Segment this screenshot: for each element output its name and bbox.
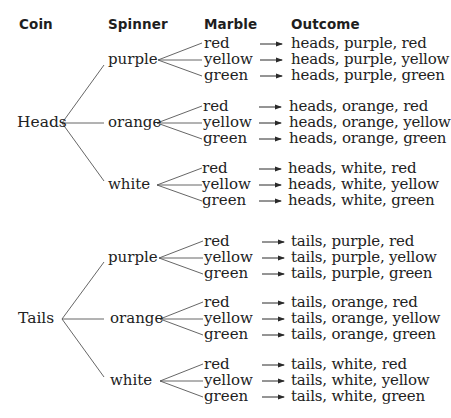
outcome-label: tails, purple, green [291,265,432,281]
marble-node: red [204,35,230,51]
spinner-node-heads-orange: orange [108,114,161,130]
marble-node: green [204,67,248,83]
marble-node: green [204,265,248,281]
spinner-node-heads-white: white [108,176,150,192]
marble-node: red [204,356,230,372]
marble-node: yellow [204,249,253,265]
marble-node: yellow [202,176,251,192]
marble-node: green [204,326,248,342]
spinner-node-tails-purple: purple [108,249,158,265]
outcome-label: heads, white, green [288,192,434,208]
outcome-label: tails, orange, green [291,326,436,342]
marble-node: red [202,160,228,176]
outcome-label: tails, white, yellow [291,372,429,388]
outcome-label: heads, white, red [288,160,416,176]
marble-node: yellow [204,372,253,388]
outcome-label: tails, orange, red [291,294,418,310]
coin-node-heads: Heads [17,114,67,130]
outcome-label: heads, purple, yellow [291,51,449,67]
outcome-label: heads, orange, yellow [289,114,451,130]
spinner-node-heads-purple: purple [108,51,158,67]
marble-node: yellow [203,114,252,130]
marble-node: red [204,233,230,249]
marble-node: yellow [204,310,253,326]
marble-node: yellow [204,51,253,67]
marble-node: red [204,294,230,310]
outcome-label: tails, white, green [291,388,425,404]
outcome-label: heads, white, yellow [288,176,439,192]
marble-node: red [203,98,229,114]
spinner-node-tails-orange: orange [110,310,163,326]
spinner-node-tails-white: white [110,372,152,388]
outcome-label: heads, orange, red [289,98,428,114]
outcome-label: heads, orange, green [289,130,446,146]
outcome-label: heads, purple, red [291,35,427,51]
coin-node-tails: Tails [18,310,54,326]
outcome-label: tails, white, red [291,356,407,372]
outcome-label: heads, purple, green [291,67,445,83]
marble-node: green [202,192,246,208]
outcome-label: tails, orange, yellow [291,310,440,326]
marble-node: green [204,388,248,404]
outcome-label: tails, purple, red [291,233,414,249]
tree-diagram: Coin Spinner Marble Outcome [0,0,451,418]
marble-node: green [203,130,247,146]
outcome-label: tails, purple, yellow [291,249,437,265]
